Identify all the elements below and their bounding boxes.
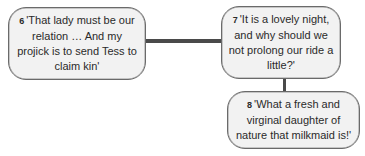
- node-quote: 'It is a lovely night, and why should we…: [229, 13, 334, 71]
- node-number: 7: [233, 15, 238, 25]
- node-number: 8: [247, 100, 252, 110]
- node-quote: 'That lady must be our relation … And my…: [17, 14, 137, 72]
- node-number: 6: [19, 16, 24, 26]
- quote-node-6-content: 6'That lady must be our relation … And m…: [15, 13, 139, 74]
- quote-node-6: 6'That lady must be our relation … And m…: [8, 7, 146, 80]
- quote-node-8-content: 8'What a fresh and virginal daughter of …: [234, 97, 353, 143]
- connector-7-to-8: [283, 79, 286, 91]
- quote-node-7: 7'It is a lovely night, and why should w…: [221, 6, 341, 79]
- quote-node-8: 8'What a fresh and virginal daughter of …: [227, 91, 360, 149]
- quote-node-7-content: 7'It is a lovely night, and why should w…: [228, 12, 334, 73]
- connector-6-to-7: [146, 39, 221, 43]
- node-quote: 'What a fresh and virginal daughter of n…: [236, 98, 351, 141]
